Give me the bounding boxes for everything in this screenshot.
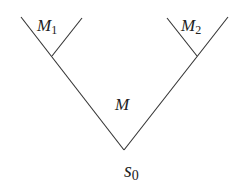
label-m: M xyxy=(115,96,129,113)
left-main-edge xyxy=(21,17,124,150)
tree-diagram: M1 M2 M s0 xyxy=(0,0,238,188)
right-main-edge xyxy=(124,17,228,150)
label-s0: s0 xyxy=(124,160,139,183)
label-m2: M2 xyxy=(181,17,201,36)
label-m1: M1 xyxy=(37,17,57,36)
cone-lines xyxy=(0,0,238,188)
